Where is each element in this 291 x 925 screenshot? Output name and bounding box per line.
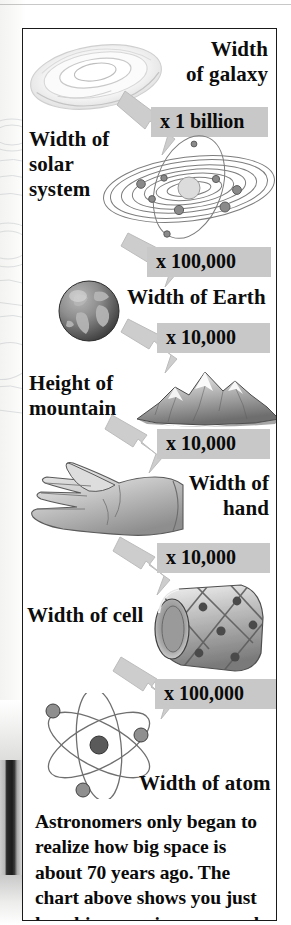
label-earth: Width of Earth xyxy=(127,285,277,310)
badge-cell-multiplier: x 100,000 xyxy=(155,679,277,709)
scale-chart-frame: Width of galaxy x 1 billion Width of sol… xyxy=(22,28,277,921)
badge-galaxy-multiplier: x 1 billion xyxy=(151,107,268,137)
scan-top-rule xyxy=(0,4,291,5)
page-edge-lower xyxy=(0,875,22,925)
badge-earth-multiplier: x 10,000 xyxy=(157,323,270,353)
scanned-page: Width of galaxy x 1 billion Width of sol… xyxy=(0,0,291,925)
page-edge-highlight xyxy=(0,700,22,762)
label-atom: Width of atom xyxy=(139,771,277,796)
solar-system-icon xyxy=(101,135,277,243)
book-spine-shadow xyxy=(0,760,22,875)
label-galaxy: Width of galaxy xyxy=(143,37,268,87)
badge-solar-multiplier: x 100,000 xyxy=(147,247,271,277)
badge-hand-multiplier: x 10,000 xyxy=(157,543,270,573)
earth-icon xyxy=(55,277,123,345)
chart-caption: Astronomers only began to realize how bi… xyxy=(35,809,267,921)
label-hand: Width of hand xyxy=(141,471,269,521)
